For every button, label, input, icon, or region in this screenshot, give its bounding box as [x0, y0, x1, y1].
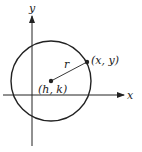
circle-point: [85, 60, 89, 64]
x-axis-label: x: [127, 89, 134, 102]
radius-label: r: [64, 58, 70, 71]
circle-diagram: y x r (x, y) (h, k): [0, 0, 142, 152]
y-axis-label: y: [28, 2, 36, 15]
point-label: (x, y): [91, 54, 119, 67]
center-label: (h, k): [38, 83, 67, 96]
